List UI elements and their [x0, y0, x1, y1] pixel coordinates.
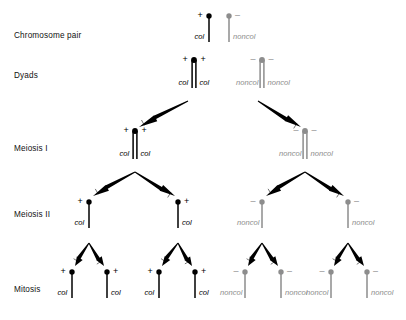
- arrow-m2-noncol-a-to-mi-1: [247, 243, 263, 266]
- chromosome-m2-noncol-a: [259, 199, 264, 228]
- centromere-dot: [206, 13, 211, 18]
- centromere-dot: [364, 269, 369, 274]
- arrow-m1-col-to-m2-a: [93, 172, 135, 196]
- gene-label-m2-noncol-a: noncol: [237, 219, 259, 227]
- allele-mi-col-4: +: [201, 267, 206, 276]
- gene-label-mi-noncol-4: noncol: [371, 289, 393, 297]
- arrow-body: [93, 172, 135, 196]
- allele-mi-noncol-2: –: [287, 267, 292, 276]
- allele-mi-noncol-1: –: [234, 267, 239, 276]
- chromosome-mi-col-4: [192, 269, 197, 298]
- centromere-dot: [345, 199, 350, 204]
- chromosome-mi-noncol-3: [328, 269, 333, 298]
- chromosome-m1-noncol: [302, 128, 308, 159]
- chromosome-m2-noncol-b: [345, 199, 350, 228]
- centromere-dot: [278, 269, 283, 274]
- allele-m2-col-a: +: [78, 197, 83, 206]
- chromosome-mi-noncol-4: [364, 269, 369, 298]
- centromere-dot: [69, 269, 74, 274]
- gene-label-dy-noncol-left: noncol: [236, 79, 258, 87]
- allele-m1-noncol-right: –: [312, 126, 317, 135]
- allele-dy-col-right: +: [201, 55, 206, 64]
- arrow-m2-col-b-to-mi-3: [161, 243, 178, 266]
- centromere-dot: [191, 57, 197, 63]
- chromosome-mi-noncol-1: [242, 269, 247, 298]
- allele-mi-col-3: +: [148, 267, 153, 276]
- arrow-body: [334, 243, 348, 266]
- gene-label-dy-col-left: col: [179, 79, 189, 87]
- centromere-dot: [259, 199, 264, 204]
- allele-m1-col-right: +: [142, 126, 147, 135]
- arrow-body: [266, 172, 305, 196]
- gene-label-mi-col-2: col: [111, 289, 121, 297]
- gene-label-cp-noncol: noncol: [233, 33, 255, 41]
- centromere-dot: [302, 128, 308, 134]
- arrow-m2-col-a-to-mi-1: [74, 243, 90, 266]
- allele-dy-noncol-right: –: [269, 55, 274, 64]
- chromosome-m2-col-b: [175, 199, 180, 228]
- chromosome-mi-col-2: [104, 269, 109, 298]
- arrow-body: [248, 243, 262, 266]
- allele-m2-col-b: +: [184, 197, 189, 206]
- row-label-mitosis: Mitosis: [14, 285, 41, 294]
- gene-label-m1-noncol-left: noncol: [279, 150, 301, 158]
- row-label-meiosis-1: Meiosis I: [14, 144, 48, 153]
- gene-label-mi-col-4: col: [199, 289, 209, 297]
- gene-label-mi-noncol-1: noncol: [220, 289, 242, 297]
- chromosome-mi-col-3: [156, 269, 161, 298]
- allele-dy-col-left: +: [183, 55, 188, 64]
- allele-m1-col-left: +: [124, 126, 129, 135]
- centromere-dot: [192, 269, 197, 274]
- arrow-body: [75, 243, 89, 266]
- chromosome-dy-col: [191, 57, 197, 88]
- gene-label-m1-noncol-right: noncol: [311, 150, 333, 158]
- centromere-dot: [132, 128, 138, 134]
- gene-label-mi-noncol-2: noncol: [285, 289, 307, 297]
- chromosome-cp-col: [206, 13, 211, 42]
- gene-label-cp-col: col: [195, 33, 205, 41]
- chromosome-mi-col-1: [69, 269, 74, 298]
- gene-label-mi-col-1: col: [58, 289, 68, 297]
- arrow-m2-col-b-to-mi-4: [178, 243, 192, 266]
- arrow-m1-noncol-to-m2-b: [305, 172, 344, 198]
- gene-label-m2-noncol-b: noncol: [352, 219, 374, 227]
- arrow-m1-col-to-m2-b: [135, 172, 175, 198]
- arrow-body: [178, 243, 192, 266]
- arrow-m2-noncol-b-to-mi-3: [333, 243, 349, 266]
- arrow-body: [89, 243, 104, 266]
- gene-label-m2-col-b: col: [182, 219, 192, 227]
- arrow-dyad-col-to-m1: [139, 101, 188, 127]
- allele-cp-noncol: –: [235, 11, 240, 20]
- centromere-dot: [86, 199, 91, 204]
- arrow-body: [135, 172, 175, 196]
- gene-label-m2-col-a: col: [75, 219, 85, 227]
- row-label-chromosome-pair: Chromosome pair: [14, 31, 81, 40]
- chromosome-cp-noncol: [226, 13, 231, 42]
- allele-mi-noncol-3: –: [320, 267, 325, 276]
- gene-label-m1-col-right: col: [141, 150, 151, 158]
- meiosis-mitosis-diagram: Chromosome pairDyadsMeiosis IMeiosis IIM…: [0, 0, 406, 320]
- chromosome-m1-col: [132, 128, 138, 159]
- arrow-m1-noncol-to-m2-a: [266, 172, 305, 196]
- arrow-body: [348, 243, 364, 266]
- centromere-dot: [259, 57, 265, 63]
- arrow-m2-noncol-a-to-mi-2: [262, 243, 278, 266]
- allele-m2-noncol-b: –: [354, 197, 359, 206]
- chromosome-mi-noncol-2: [278, 269, 283, 298]
- arrow-body: [162, 243, 178, 266]
- row-label-meiosis-2: Meiosis II: [14, 210, 50, 219]
- arrow-body: [305, 172, 344, 196]
- allele-cp-col: +: [198, 11, 203, 20]
- gene-label-dy-col-right: col: [200, 79, 210, 87]
- centromere-dot: [242, 269, 247, 274]
- allele-mi-col-2: +: [113, 267, 118, 276]
- centromere-dot: [104, 269, 109, 274]
- chromosome-dy-noncol: [259, 57, 265, 88]
- allele-m2-noncol-a: –: [251, 197, 256, 206]
- allele-mi-col-1: +: [61, 267, 66, 276]
- gene-label-mi-noncol-3: noncol: [306, 289, 328, 297]
- chromosome-m2-col-a: [86, 199, 91, 228]
- arrow-body: [258, 101, 301, 127]
- arrow-body: [139, 101, 188, 127]
- gene-label-mi-col-3: col: [145, 289, 155, 297]
